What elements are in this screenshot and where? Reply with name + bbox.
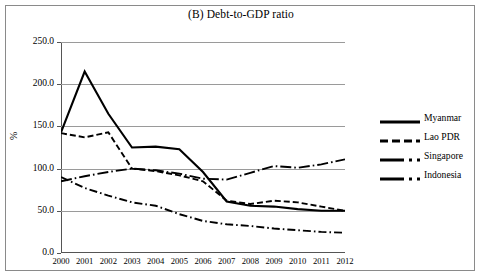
legend-label: Myanmar xyxy=(424,112,461,123)
series-line-singapore xyxy=(61,159,345,181)
legend-item-indonesia[interactable]: Indonesia xyxy=(380,165,478,184)
series-line-indonesia xyxy=(61,177,345,233)
y-axis-tick-labels: 250.0200.0150.0100.050.00.0 xyxy=(0,0,58,277)
x-tick-label: 2002 xyxy=(100,256,117,266)
legend-label: Indonesia xyxy=(424,169,461,180)
legend-item-lao-pdr[interactable]: Lao PDR xyxy=(380,127,478,146)
x-tick-label: 2006 xyxy=(194,256,211,266)
legend-label: Singapore xyxy=(424,150,463,161)
x-axis-tick-labels: 2000200120022003200420052006200720082009… xyxy=(61,256,345,272)
x-tick-label: 2007 xyxy=(218,256,235,266)
legend-swatch-icon xyxy=(380,132,420,142)
legend-swatch-icon xyxy=(380,113,420,123)
chart-title: (B) Debt-to-GDP ratio xyxy=(0,8,482,20)
x-tick-label: 2012 xyxy=(336,256,353,266)
x-tick-label: 2011 xyxy=(313,256,330,266)
y-tick-label: 100.0 xyxy=(33,164,54,174)
legend-item-myanmar[interactable]: Myanmar xyxy=(380,108,478,127)
x-tick-label: 2000 xyxy=(52,256,69,266)
y-tick-label: 150.0 xyxy=(33,121,54,131)
x-tick-label: 2008 xyxy=(242,256,259,266)
y-tick-label: 50.0 xyxy=(37,206,54,216)
legend-swatch-icon xyxy=(380,170,420,180)
x-tick-label: 2001 xyxy=(76,256,93,266)
x-tick-label: 2003 xyxy=(123,256,140,266)
chart-legend: MyanmarLao PDRSingaporeIndonesia xyxy=(380,108,478,184)
legend-label: Lao PDR xyxy=(424,131,460,142)
series-line-myanmar xyxy=(61,72,345,211)
series-lines xyxy=(61,42,345,253)
y-tick-label: 200.0 xyxy=(33,79,54,89)
x-tick-label: 2010 xyxy=(289,256,306,266)
x-tick-label: 2004 xyxy=(147,256,164,266)
x-tick-label: 2005 xyxy=(171,256,188,266)
plot-area xyxy=(61,42,345,253)
legend-swatch-icon xyxy=(380,151,420,161)
legend-item-singapore[interactable]: Singapore xyxy=(380,146,478,165)
y-tick-label: 250.0 xyxy=(33,37,54,47)
x-tick-label: 2009 xyxy=(265,256,282,266)
chart-figure: (B) Debt-to-GDP ratio % 250.0200.0150.01… xyxy=(0,0,482,277)
y-tick-mark xyxy=(57,253,61,254)
